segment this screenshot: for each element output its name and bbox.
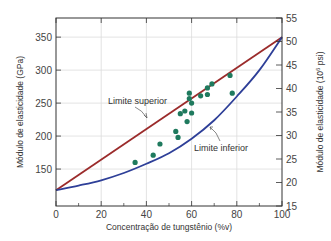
y-right-tick-label: 45 [286, 60, 298, 71]
x-axis-ticks: 020406080100 [53, 18, 291, 220]
data-point [227, 73, 232, 78]
data-point [133, 160, 138, 165]
y-right-tick-label: 20 [286, 177, 298, 188]
data-point [198, 93, 203, 98]
y-right-tick-label: 40 [286, 83, 298, 94]
data-point [173, 129, 178, 134]
data-point [189, 110, 194, 115]
y-tick-label: 250 [35, 98, 52, 109]
y-right-tick-label: 25 [286, 154, 298, 165]
data-point [205, 85, 210, 90]
lower-bound-label: Limite inferior [194, 143, 248, 153]
y-tick-label: 200 [35, 131, 52, 142]
grid-lines [56, 18, 282, 206]
x-tick-label: 80 [231, 209, 243, 220]
x-axis-title: Concentração de tungstênio (%v) [106, 222, 232, 232]
y-tick-label: 150 [35, 164, 52, 175]
y-right-tick-label: 55 [286, 13, 298, 24]
x-tick-label: 20 [96, 209, 108, 220]
data-point [151, 153, 156, 158]
chart: 020406080100 150200250300350 15202530354… [0, 0, 331, 241]
data-point [157, 141, 162, 146]
data-point [175, 135, 180, 140]
data-point [184, 119, 189, 124]
y-axis-ticks: 150200250300350 [35, 32, 61, 175]
y-right-axis-title: Módulo de elasticidade (106 psi) [315, 51, 325, 172]
data-point [209, 81, 214, 86]
data-point [182, 108, 187, 113]
data-point [187, 91, 192, 96]
data-point [189, 100, 194, 105]
upper-bound-label: Limite superior [108, 96, 167, 106]
x-tick-label: 60 [186, 209, 198, 220]
series-line [56, 37, 282, 190]
data-point [230, 91, 235, 96]
data-point [187, 96, 192, 101]
y-right-tick-label: 15 [286, 201, 298, 212]
y-tick-label: 300 [35, 65, 52, 76]
y-axis-title: Módulo de elasticidade (GPa) [15, 56, 25, 168]
plot-frame [56, 18, 282, 206]
y-tick-label: 350 [35, 32, 52, 43]
x-tick-label: 40 [141, 209, 153, 220]
y-right-tick-label: 50 [286, 36, 298, 47]
data-point [205, 92, 210, 97]
data-point [178, 111, 183, 116]
plot-border [56, 18, 282, 206]
lower-bound-arrow [210, 127, 220, 141]
y-right-title-suffix: psi) [315, 51, 325, 67]
y-right-tick-label: 35 [286, 107, 298, 118]
upper-bound-line [56, 37, 282, 190]
y-right-title-prefix: Módulo de elasticidade (10 [315, 71, 325, 173]
y-right-tick-label: 30 [286, 130, 298, 141]
x-tick-label: 0 [53, 209, 59, 220]
